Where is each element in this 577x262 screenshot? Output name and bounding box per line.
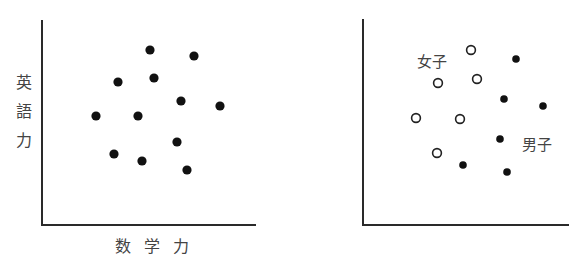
boy-data-point <box>539 102 547 110</box>
data-point <box>113 77 122 86</box>
data-point <box>189 51 198 60</box>
data-point <box>149 73 158 82</box>
data-point <box>182 165 191 174</box>
data-point <box>172 137 181 146</box>
girl-data-point <box>412 114 421 123</box>
boy-data-point <box>512 55 520 63</box>
data-point <box>215 101 224 110</box>
ylabel-char-3: 力 <box>16 131 32 150</box>
right-scatter-plot: 女子 男子 <box>363 19 569 225</box>
girl-data-point <box>467 46 476 55</box>
boy-data-point <box>496 135 504 143</box>
data-point <box>176 96 185 105</box>
girl-data-point <box>434 79 443 88</box>
girl-data-point <box>456 115 465 124</box>
boys-label: 男子 <box>522 136 552 154</box>
xlabel-char-2: 学 <box>144 237 160 256</box>
boy-data-point <box>500 95 508 103</box>
boy-data-point <box>459 161 467 169</box>
data-point <box>133 111 142 120</box>
girl-data-point <box>473 75 482 84</box>
figure: 英 語 力 数 学 力 女子 男子 <box>0 0 577 262</box>
ylabel-char-2: 語 <box>16 102 32 121</box>
data-point <box>109 149 118 158</box>
xlabel-char-1: 数 <box>115 237 131 256</box>
boy-data-point <box>503 168 511 176</box>
xlabel-char-3: 力 <box>173 237 189 256</box>
data-point <box>137 156 146 165</box>
girls-label: 女子 <box>417 53 447 71</box>
boys-data-points <box>459 55 547 176</box>
girl-data-point <box>433 149 442 158</box>
data-point <box>91 111 100 120</box>
ylabel-char-1: 英 <box>16 73 32 92</box>
left-data-points <box>91 45 224 174</box>
left-scatter-plot: 英 語 力 数 学 力 <box>16 20 256 256</box>
data-point <box>145 45 154 54</box>
